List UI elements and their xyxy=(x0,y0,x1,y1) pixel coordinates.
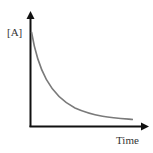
x-axis-arrow-icon xyxy=(141,123,149,131)
y-axis-arrow-icon xyxy=(27,11,35,19)
decay-diagram: [A] Time xyxy=(0,0,153,153)
x-axis-label: Time xyxy=(116,134,139,146)
decay-curve xyxy=(32,32,134,120)
y-axis-label: [A] xyxy=(7,26,22,38)
